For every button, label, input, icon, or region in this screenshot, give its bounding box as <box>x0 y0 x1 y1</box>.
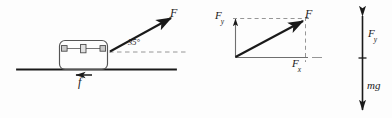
left-diagram-group <box>17 18 186 75</box>
resultant-force-arrow <box>236 21 304 57</box>
triangle-fy-label: Fy <box>215 10 225 24</box>
diagram-vector-layer <box>0 0 392 118</box>
vertical-force-scale-group <box>359 16 367 110</box>
triangle-fy-subscript: y <box>221 17 224 26</box>
box-handle-center <box>81 44 86 52</box>
applied-force-arrow <box>110 18 171 52</box>
box-latch-left <box>62 46 68 52</box>
component-triangle-group <box>233 17 322 62</box>
vertical-fy-subscript: y <box>374 35 377 44</box>
box-latch-right <box>100 46 106 52</box>
triangle-resultant-label: F <box>305 8 312 20</box>
angle-label: 35° <box>128 38 140 47</box>
applied-force-label: F <box>170 7 177 19</box>
physics-force-diagram: F 35° f Fy Fx F Fy mg <box>0 0 392 118</box>
triangle-fx-label: Fx <box>292 58 302 72</box>
vertical-mg-label: mg <box>367 80 380 91</box>
vertical-fy-label: Fy <box>368 28 378 42</box>
triangle-fx-subscript: x <box>298 65 301 74</box>
friction-force-label: f <box>78 76 81 88</box>
